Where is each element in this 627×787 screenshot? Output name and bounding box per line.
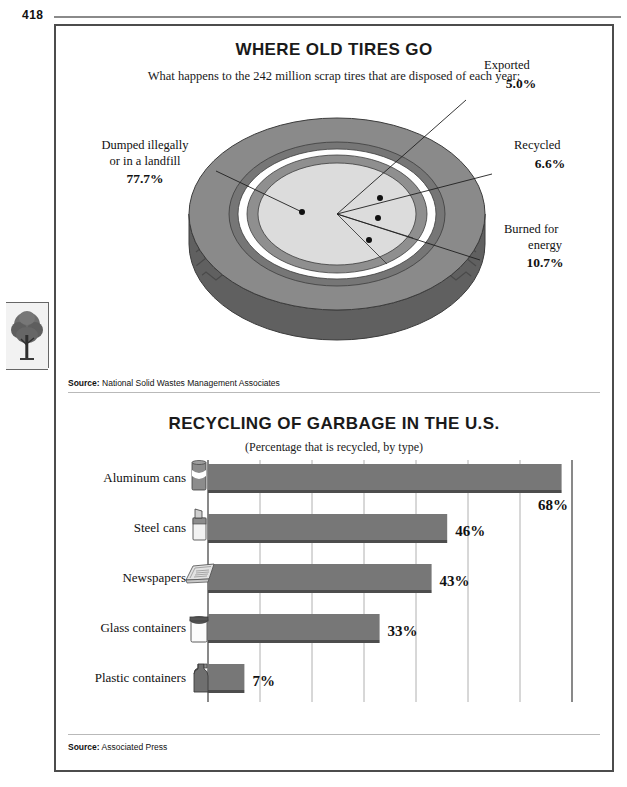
category-label-steel-cans: Steel cans	[134, 520, 186, 535]
source-text: National Solid Wastes Management Associa…	[102, 378, 280, 388]
margin-tree-thumbnail	[6, 302, 48, 370]
figure2-title: RECYCLING OF GARBAGE IN THE U.S.	[56, 414, 612, 434]
header-rule	[54, 16, 621, 18]
figure1-title: WHERE OLD TIRES GO	[56, 40, 612, 60]
bar-value-label: 43%	[440, 573, 470, 589]
figure-divider	[68, 392, 600, 393]
category-label-newspapers: Newspapers	[122, 570, 186, 585]
callout-exported: Exported 5.0%	[484, 58, 604, 93]
category-label-aluminum-cans: Aluminum cans	[103, 470, 186, 485]
callout-label-line1: Dumped illegally	[101, 138, 188, 152]
margin-divider	[48, 302, 49, 368]
callout-value: 10.7%	[504, 255, 586, 272]
bar-value-label: 68%	[538, 497, 568, 513]
figure-recycling-of-garbage: RECYCLING OF GARBAGE IN THE U.S. (Percen…	[56, 402, 612, 772]
bar-shadow	[208, 540, 447, 543]
bar-shadow	[208, 490, 562, 493]
callout-value: 6.6%	[514, 156, 586, 173]
callout-recycled: Recycled 6.6%	[514, 138, 624, 173]
bar-row-glass-containers: 33%	[208, 614, 418, 643]
bar	[208, 514, 447, 540]
callout-label-line1: Recycled	[514, 138, 561, 152]
bar-chart-svg: 68% 46% 43% 33%	[56, 460, 612, 710]
bar-chart: 68% 46% 43% 33%	[56, 460, 612, 710]
content-frame: WHERE OLD TIRES GO What happens to the 2…	[54, 24, 614, 772]
bar-row-plastic-containers: 7%	[208, 664, 275, 693]
source-label: Source:	[68, 378, 100, 388]
figure2-rule	[68, 734, 600, 735]
bar-value-label: 33%	[388, 623, 418, 639]
bar-row-aluminum-cans: 68%	[208, 464, 568, 513]
plastic-jug-icon	[194, 664, 208, 692]
callout-label-line2: or in a landfill	[109, 154, 180, 168]
source-label: Source:	[68, 742, 100, 752]
bar	[208, 464, 562, 490]
aluminum-can-icon	[192, 461, 206, 491]
callout-value: 77.7%	[74, 171, 216, 188]
figure2-subtitle: (Percentage that is recycled, by type)	[56, 440, 612, 455]
figure-where-old-tires-go: WHERE OLD TIRES GO What happens to the 2…	[56, 26, 612, 398]
category-label-plastic-containers: Plastic containers	[95, 670, 186, 685]
callout-label-line1: Burned for	[504, 222, 559, 236]
bar-row-steel-cans: 46%	[208, 514, 485, 543]
bar-shadow	[208, 640, 380, 643]
bar	[208, 614, 380, 640]
source-text: Associated Press	[102, 742, 168, 752]
callout-value: 5.0%	[484, 76, 558, 93]
bar-row-newspapers: 43%	[208, 564, 470, 593]
callout-label-line1: Exported	[484, 58, 530, 72]
callout-burned-for-energy: Burned for energy 10.7%	[504, 222, 614, 272]
glass-jar-icon	[190, 617, 208, 642]
tree-icon	[8, 305, 46, 365]
bar-shadow	[208, 690, 244, 693]
callout-label-line2: energy	[504, 238, 586, 254]
page-number: 418	[22, 8, 44, 22]
bar	[208, 564, 432, 590]
callout-dumped-illegally: Dumped illegally or in a landfill 77.7%	[74, 138, 216, 188]
bar-shadow	[208, 590, 432, 593]
figure2-source: Source: Associated Press	[68, 742, 167, 752]
bar-value-label: 46%	[455, 523, 485, 539]
figure1-source: Source: National Solid Wastes Management…	[68, 378, 280, 388]
bar	[208, 664, 244, 690]
category-label-glass-containers: Glass containers	[100, 620, 186, 635]
bar-value-label: 7%	[252, 673, 275, 689]
steel-can-icon	[193, 509, 206, 540]
